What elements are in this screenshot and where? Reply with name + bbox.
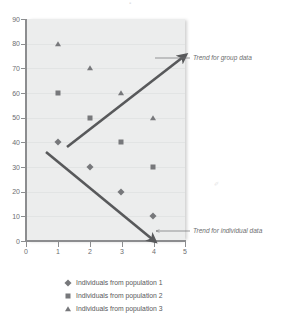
legend-label-population-1: Individuals from population 1 [76, 279, 163, 287]
legend-item-population-3: Individuals from population 3 [63, 302, 223, 315]
group-trend-label: Trend for group data [193, 54, 252, 62]
square-marker-icon [63, 290, 73, 301]
legend-item-population-1: Individuals from population 1 [63, 276, 223, 289]
scatter-chart-figure: 90 80 70 60 50 40 30 20 10 0 0 1 2 3 4 5… [0, 0, 285, 319]
legend-label-population-2: Individuals from population 2 [76, 292, 163, 300]
legend: Individuals from population 1 Individual… [63, 276, 223, 315]
individual-trend-arrow [46, 152, 152, 239]
scan-artifact-top: ▪ [129, 0, 131, 6]
scan-artifact-right: ✐ [214, 180, 219, 187]
legend-label-population-3: Individuals from population 3 [76, 305, 163, 313]
group-trend-arrow [67, 58, 183, 148]
individual-trend-label: Trend for individual data [193, 227, 262, 235]
legend-item-population-2: Individuals from population 2 [63, 289, 223, 302]
trend-arrows [0, 0, 285, 319]
triangle-marker-icon [63, 303, 73, 314]
diamond-marker-icon [63, 277, 73, 288]
